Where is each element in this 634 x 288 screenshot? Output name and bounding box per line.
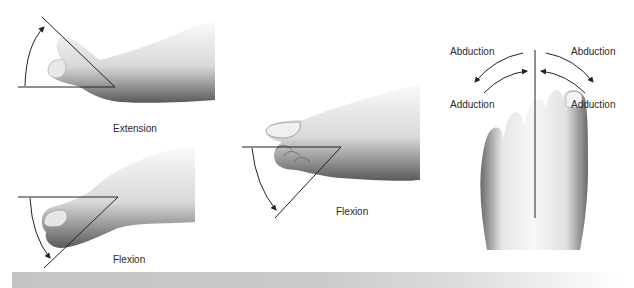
label-flexion-middle: Flexion [336,206,368,217]
adduction-arrow-left-icon [484,71,527,93]
label-abduction-right: Abduction [571,46,615,57]
label-adduction-left: Adduction [450,99,494,110]
label-adduction-right: Adduction [571,99,615,110]
label-abduction-left: Abduction [450,46,494,57]
flexion-great-panel [242,84,420,218]
label-flexion-left: Flexion [113,254,145,265]
arc-arrow-down-icon [252,148,276,210]
abduction-adduction-panel [475,50,593,250]
abduction-arrow-right-icon [546,53,593,82]
label-extension: Extension [113,123,157,134]
flexion-lesser-panel [18,146,195,268]
extension-panel [18,17,215,103]
foot-extension [48,22,215,103]
diagram-canvas [0,0,634,288]
foot-dorsal [480,90,588,250]
abduction-arrow-left-icon [475,53,523,82]
adduction-arrow-right-icon [541,71,585,93]
bottom-divider-bar [12,272,622,288]
arc-arrow-up-icon [25,27,44,86]
